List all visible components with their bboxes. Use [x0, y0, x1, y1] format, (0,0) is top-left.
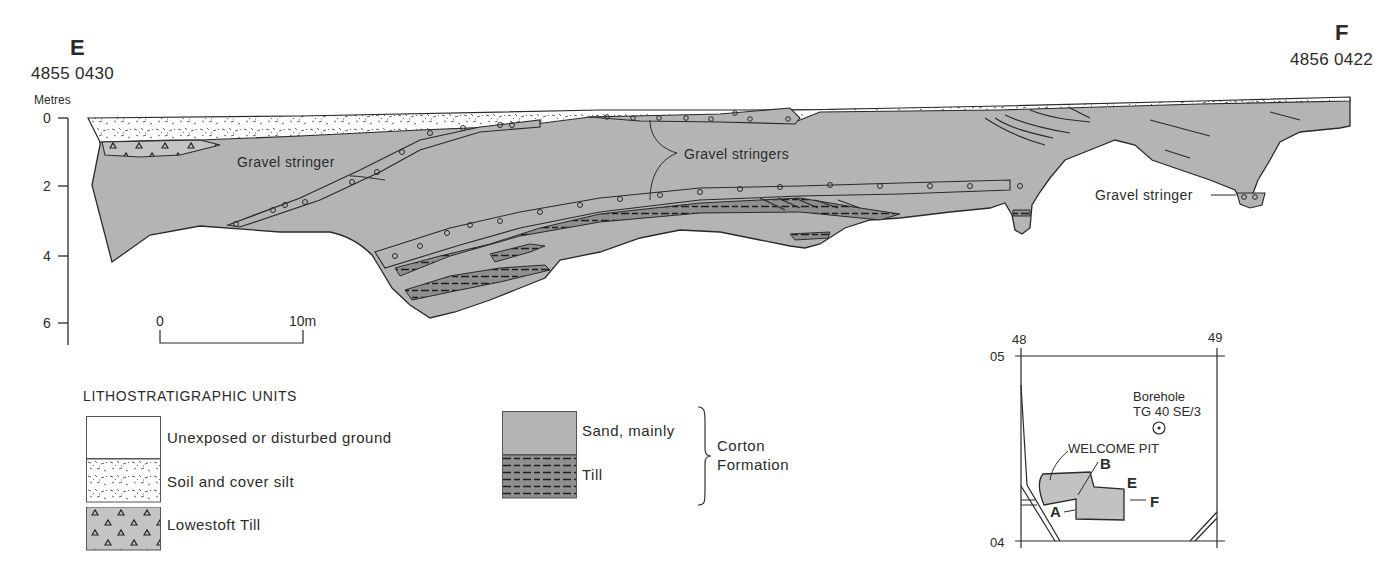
legend-swatch-lowestoft-till [86, 507, 161, 551]
scale-bar-end: 10m [289, 313, 316, 329]
section-end-grid-ref: 4856 0422 [1290, 50, 1373, 70]
section-start-grid-ref: 4855 0430 [31, 64, 114, 84]
legend-corton-swatches [502, 411, 577, 499]
legend-group-corton: Corton [717, 437, 765, 454]
annotation-gravel-stringer-right: Gravel stringer [1095, 187, 1193, 203]
depth-tick-4: 4 [43, 248, 51, 264]
legend-swatch-unexposed [86, 416, 161, 459]
legend-swatch-soil [86, 459, 161, 503]
depth-tick-0: 0 [43, 110, 51, 126]
map-point-e: E [1127, 474, 1137, 491]
scale-bar [160, 330, 303, 343]
legend-swatch-till [502, 455, 577, 499]
legend-group-formation: Formation [717, 456, 789, 473]
map-grid-y-05: 05 [990, 349, 1004, 364]
legend-brace-icon [695, 404, 715, 508]
map-point-f: F [1150, 493, 1159, 510]
legend-label-sand: Sand, mainly [582, 422, 675, 439]
map-grid-x-48: 48 [1012, 332, 1026, 347]
section-start-letter: E [70, 35, 85, 61]
map-borehole-label: Borehole [1133, 389, 1185, 404]
till-lens-5 [1013, 210, 1030, 216]
map-borehole-id: TG 40 SE/3 [1133, 404, 1201, 419]
depth-axis-unit: Metres [34, 93, 71, 107]
map-pit-label: WELCOME PIT [1068, 441, 1159, 456]
scale-bar-start: 0 [156, 313, 164, 329]
section-end-letter: F [1335, 20, 1348, 46]
annotation-gravel-stringers-center: Gravel stringers [684, 146, 789, 162]
legend-label-unexposed: Unexposed or disturbed ground [167, 429, 392, 446]
legend-label-lowestoft-till: Lowestoft Till [167, 516, 261, 533]
legend-swatch-stack [86, 416, 161, 546]
legend-label-soil: Soil and cover silt [167, 473, 294, 490]
map-point-b: B [1100, 455, 1111, 472]
annotation-gravel-stringer-left: Gravel stringer [237, 154, 335, 170]
legend-label-till: Till [582, 466, 603, 483]
map-point-a: A [1050, 503, 1061, 520]
gravel-stringer-pocket [1237, 193, 1265, 208]
depth-axis [58, 118, 68, 345]
legend-swatch-sand [502, 411, 577, 455]
map-grid-y-04: 04 [990, 535, 1004, 550]
depth-tick-6: 6 [43, 315, 51, 331]
legend-title: LITHOSTRATIGRAPHIC UNITS [83, 388, 297, 404]
map-grid-x-49: 49 [1208, 330, 1222, 345]
depth-tick-2: 2 [43, 178, 51, 194]
